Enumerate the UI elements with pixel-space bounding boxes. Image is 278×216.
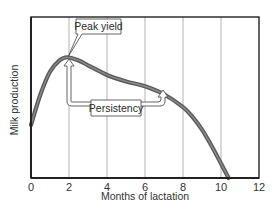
peak-yield-label: Peak yield xyxy=(74,20,123,32)
x-tick-label: 0 xyxy=(28,181,34,193)
lactation-chart: 024681012 Months of lactation Milk produ… xyxy=(0,0,278,216)
y-axis-label: Milk production xyxy=(8,65,20,136)
x-axis-label: Months of lactation xyxy=(101,190,189,202)
x-tick-label: 2 xyxy=(66,181,72,193)
x-tick-label: 10 xyxy=(215,181,227,193)
persistency-label: Persistency xyxy=(89,102,144,114)
x-tick-label: 12 xyxy=(253,181,265,193)
